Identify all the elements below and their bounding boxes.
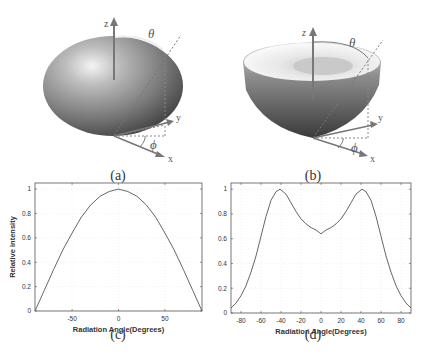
x-tick-label: 40 [357, 317, 365, 324]
y-tick-label: 0.6 [218, 235, 227, 242]
y-tick-label: 0.6 [22, 234, 31, 241]
z-axis-label: z [301, 27, 306, 38]
x-axis-label: x [370, 153, 375, 164]
y-tick-label: 0.4 [22, 259, 31, 266]
y-tick-label: 0 [27, 307, 31, 314]
y-tick-label: 0 [223, 309, 227, 316]
x-tick-label: -60 [256, 317, 266, 324]
y-tick-label: 1 [223, 185, 227, 192]
x-tick-label: -80 [236, 317, 246, 324]
caption-d: (d) [293, 327, 333, 343]
y-tick-label: 0.2 [22, 283, 31, 290]
y-axis-label: y [378, 112, 383, 123]
x-tick-label: 0 [117, 315, 121, 322]
theta-label: θ [148, 26, 155, 41]
y-tick-label: 0.8 [22, 210, 31, 217]
y-axis-title: Relative intensity [8, 215, 17, 278]
y-tick-label: 0.2 [218, 285, 227, 292]
x-axis-label: x [168, 153, 173, 164]
x-tick-label: 60 [377, 317, 385, 324]
phi-label: ϕ [351, 140, 358, 155]
z-axis-label: z [104, 18, 109, 29]
x-tick-label: 0 [319, 317, 323, 324]
x-tick-label: -50 [67, 315, 77, 322]
panel-a-ellipsoid-pattern: z y x θ ϕ [0, 0, 213, 180]
y-axis-label: y [176, 112, 181, 123]
panel-b-bowl-pattern: z y x θ ϕ [213, 0, 427, 180]
x-tick-label: -20 [296, 317, 306, 324]
x-tick-label: -40 [276, 317, 286, 324]
y-tick-label: 1 [27, 185, 31, 192]
y-tick-label: 0.4 [218, 260, 227, 267]
y-tick-label: 0.8 [218, 210, 227, 217]
x-tick-label: 80 [397, 317, 405, 324]
x-tick-label: 50 [161, 315, 169, 322]
x-tick-label: 20 [337, 317, 345, 324]
caption-c: (c) [98, 327, 138, 343]
phi-label: ϕ [150, 137, 157, 152]
theta-label: θ [349, 35, 356, 50]
